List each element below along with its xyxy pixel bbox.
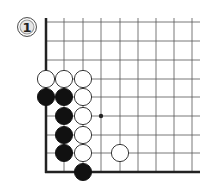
white-stone	[74, 126, 91, 143]
black-stone	[55, 88, 72, 105]
black-stone	[74, 163, 91, 180]
white-stone	[74, 70, 91, 87]
go-board	[0, 0, 215, 191]
white-stone	[111, 144, 128, 161]
white-stone	[74, 144, 91, 161]
white-stone	[74, 88, 91, 105]
white-stone	[74, 107, 91, 124]
black-stone	[55, 107, 72, 124]
black-stone	[55, 126, 72, 143]
black-stone	[55, 144, 72, 161]
star-points	[99, 114, 103, 118]
star-point	[99, 114, 103, 118]
white-stone	[37, 70, 54, 87]
black-stone	[37, 88, 54, 105]
white-stone	[55, 70, 72, 87]
